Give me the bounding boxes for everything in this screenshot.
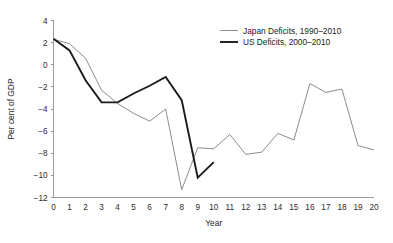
y-tick-label: −4	[38, 105, 48, 114]
x-tick-label: 16	[305, 203, 315, 212]
x-tick-label: 9	[195, 203, 200, 212]
x-axis-title: Year	[205, 218, 222, 228]
y-tick-label: −12	[34, 194, 48, 203]
series-group	[54, 39, 375, 190]
x-tick-label: 14	[273, 203, 283, 212]
y-axis-title: Per cent of GDP	[6, 78, 16, 139]
x-tick-label: 20	[369, 203, 379, 212]
y-tick-label: 0	[43, 61, 48, 70]
x-tick-label: 4	[115, 203, 120, 212]
x-tick-label: 2	[83, 203, 88, 212]
x-tick-label: 1	[67, 203, 72, 212]
x-tick-label: 12	[241, 203, 251, 212]
x-tick-label: 10	[209, 203, 219, 212]
x-axis-ticks: 01234567891011121314151617181920	[51, 203, 379, 212]
x-tick-label: 6	[147, 203, 152, 212]
x-tick-label: 11	[226, 203, 235, 212]
y-tick-label: −2	[38, 83, 48, 92]
x-tick-label: 15	[289, 203, 299, 212]
y-tick-label: −8	[38, 149, 48, 158]
x-tick-label: 7	[163, 203, 168, 212]
y-tick-label: 2	[43, 39, 48, 48]
x-tick-label: 3	[99, 203, 104, 212]
x-tick-label: 13	[257, 203, 267, 212]
legend: Japan Deficits, 1990–2010US Deficits, 20…	[220, 26, 342, 48]
y-tick-label: −6	[38, 127, 48, 136]
x-tick-label: 0	[51, 203, 56, 212]
series-japan-line	[54, 39, 375, 189]
legend-label: US Deficits, 2000–2010	[243, 37, 331, 47]
y-axis-ticks: 420−2−4−6−8−10−12	[34, 17, 54, 203]
series-us-line	[54, 39, 214, 178]
x-tick-label: 18	[337, 203, 347, 212]
x-tick-label: 5	[131, 203, 136, 212]
deficits-line-chart: 420−2−4−6−8−10−12 0123456789101112131415…	[0, 0, 393, 243]
y-tick-label: 4	[43, 17, 48, 26]
chart-container: 420−2−4−6−8−10−12 0123456789101112131415…	[0, 0, 393, 243]
legend-label: Japan Deficits, 1990–2010	[243, 26, 342, 36]
x-tick-label: 19	[353, 203, 363, 212]
x-tick-label: 8	[179, 203, 184, 212]
y-tick-label: −10	[34, 171, 48, 180]
x-tick-label: 17	[321, 203, 331, 212]
